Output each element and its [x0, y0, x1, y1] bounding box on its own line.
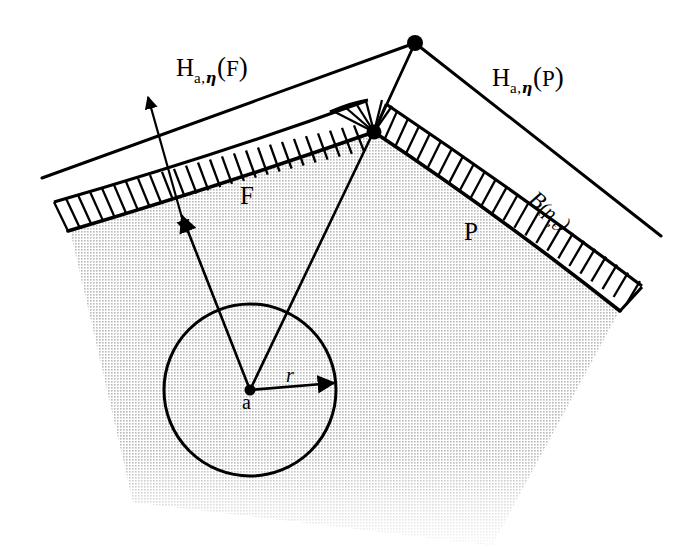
label-halfplane-P-open-paren: (: [533, 62, 542, 92]
band-cap-P: [620, 287, 642, 311]
label-halfplane-F: Ha,η(F): [176, 52, 248, 87]
apex-point-dot: [407, 35, 423, 51]
figure-svg: [0, 0, 700, 560]
boundary-vertex-dot: [367, 125, 382, 140]
label-halfplane-P-arg: P: [542, 66, 555, 91]
label-center-a: a: [242, 391, 251, 414]
diagram-canvas: Ha,η(F) Ha,η(P) B(p,ϵ) F P a r: [0, 0, 700, 560]
label-face-F: F: [240, 182, 254, 210]
eta-glyph-F: η: [205, 69, 216, 87]
label-halfplane-P-subscript: a,: [510, 80, 521, 96]
eta-glyph-P: η: [521, 79, 532, 97]
label-halfplane-P-close-paren: ): [555, 62, 564, 92]
label-halfplane-F-subscript: a,: [194, 70, 205, 86]
label-point-P: P: [464, 218, 478, 246]
label-radius-r: r: [286, 364, 294, 387]
label-halfplane-F-close-paren: ): [239, 52, 248, 82]
label-halfplane-F-arg: F: [226, 56, 239, 81]
label-halfplane-F-base: H: [176, 54, 194, 81]
label-halfplane-F-open-paren: (: [217, 52, 226, 82]
label-halfplane-P-base: H: [492, 64, 510, 91]
label-halfplane-P: Ha,η(P): [492, 62, 564, 97]
